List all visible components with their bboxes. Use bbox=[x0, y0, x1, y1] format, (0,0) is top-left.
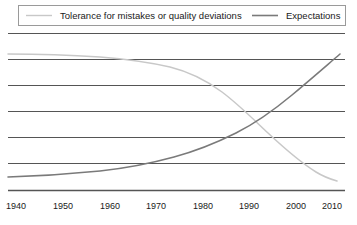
line-chart: Tolerance for mistakes or quality deviat… bbox=[0, 0, 357, 225]
chart-container: Tolerance for mistakes or quality deviat… bbox=[0, 0, 357, 225]
x-tick-label-1950: 1950 bbox=[53, 201, 73, 211]
x-tick-label-1960: 1960 bbox=[100, 201, 120, 211]
chart-legend: Tolerance for mistakes or quality deviat… bbox=[19, 6, 346, 26]
legend-label-expectations: Expectations bbox=[286, 10, 341, 21]
legend-label-tolerance: Tolerance for mistakes or quality deviat… bbox=[60, 10, 242, 21]
x-tick-label-1940: 1940 bbox=[6, 201, 26, 211]
x-tick-label-1970: 1970 bbox=[146, 201, 166, 211]
x-tick-label-1980: 1980 bbox=[193, 201, 213, 211]
x-tick-label-2010: 2010 bbox=[322, 201, 342, 211]
x-tick-label-1990: 1990 bbox=[239, 201, 259, 211]
x-tick-label-2000: 2000 bbox=[286, 201, 306, 211]
